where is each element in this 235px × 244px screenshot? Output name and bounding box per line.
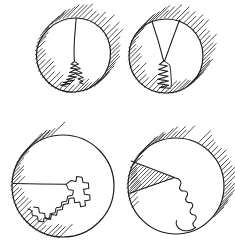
slit-disk-figure [0, 0, 235, 244]
figure-sheet [0, 0, 235, 244]
chord-slit-panel-3 [14, 184, 67, 185]
